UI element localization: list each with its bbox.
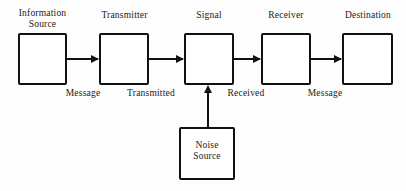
arrow-signal-to-receiver bbox=[234, 58, 260, 60]
node-box-signal[interactable] bbox=[184, 33, 234, 85]
edge-label-message-2: Message bbox=[295, 88, 355, 99]
arrow-noise-source-to-signal bbox=[207, 93, 209, 127]
diagram-canvas: Information Source Transmitter Signal Re… bbox=[0, 0, 406, 191]
node-title-transmitter: Transmitter bbox=[86, 10, 163, 21]
arrow-transmitter-to-signal bbox=[149, 58, 183, 60]
node-box-information-source[interactable] bbox=[18, 33, 67, 85]
edge-label-transmitted: Transmitted bbox=[121, 88, 181, 99]
node-box-destination[interactable] bbox=[342, 33, 393, 85]
edge-label-received: Received bbox=[216, 88, 276, 99]
node-title-information-source: Information Source bbox=[6, 8, 79, 30]
node-title-destination: Destination bbox=[333, 10, 403, 21]
edge-label-message-1: Message bbox=[53, 88, 113, 99]
node-title-receiver: Receiver bbox=[254, 10, 318, 21]
node-box-receiver[interactable] bbox=[261, 33, 311, 85]
arrow-receiver-to-destination bbox=[311, 58, 341, 60]
node-label-noise-source: Noise Source bbox=[179, 140, 235, 162]
node-title-signal: Signal bbox=[178, 10, 240, 21]
arrow-information-source-to-transmitter bbox=[67, 58, 98, 60]
node-box-transmitter[interactable] bbox=[99, 33, 149, 85]
